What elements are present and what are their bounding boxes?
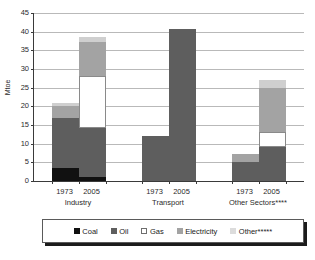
y-axis-tick (31, 50, 34, 51)
legend-item-label: Electricity (185, 227, 217, 236)
bar-other-sectors-1973[interactable] (232, 154, 259, 181)
x-axis-tick (106, 181, 107, 184)
y-axis-tick (31, 162, 34, 163)
y-axis-tick-label: 10 (13, 140, 29, 148)
bar-segment-oil[interactable] (79, 128, 106, 177)
bar-segment-oil[interactable] (52, 118, 79, 168)
legend-item-label: Other***** (239, 227, 272, 236)
y-axis-tick-label: 30 (13, 65, 29, 73)
x-axis-tick (232, 181, 233, 184)
bar-industry-1973[interactable] (52, 103, 79, 181)
stacked-bar-chart: Mtoe 051015202530354045 1973200519732005… (0, 0, 315, 260)
y-axis-tick (31, 32, 34, 33)
coal-swatch (74, 228, 80, 234)
bar-segment-oil[interactable] (232, 162, 259, 181)
legend-item-label: Coal (82, 227, 97, 236)
bar-industry-2005[interactable] (79, 37, 106, 181)
bar-transport-2005[interactable] (169, 29, 196, 181)
electricity-swatch (177, 228, 183, 234)
legend-item[interactable]: Gas (141, 227, 163, 236)
bar-segment-coal[interactable] (79, 177, 106, 181)
x-axis-year-label: 2005 (255, 187, 288, 196)
gridline (34, 13, 304, 14)
bar-segment-other[interactable] (79, 37, 106, 42)
bar-segment-electricity[interactable] (232, 154, 259, 162)
bar-transport-1973[interactable] (142, 136, 169, 181)
bar-segment-electricity[interactable] (52, 106, 79, 117)
x-axis-tick (142, 181, 143, 184)
bar-segment-oil[interactable] (142, 136, 169, 181)
y-axis-tick (31, 181, 34, 182)
y-axis-tick (31, 106, 34, 107)
legend-item[interactable]: Other***** (230, 227, 272, 236)
y-axis-tick (31, 88, 34, 89)
x-axis-year-label: 2005 (165, 187, 198, 196)
legend-item[interactable]: Coal (74, 227, 98, 236)
x-axis-tick (259, 181, 260, 184)
bar-segment-electricity[interactable] (259, 88, 286, 132)
y-axis-tick (31, 13, 34, 14)
legend-item[interactable]: Electricity (177, 227, 218, 236)
plot-area (33, 13, 304, 182)
y-axis-tick (31, 69, 34, 70)
y-axis-tick-label: 35 (13, 46, 29, 54)
y-axis-tick (31, 144, 34, 145)
legend-item-label: Gas (150, 227, 164, 236)
y-axis-tick-label: 45 (13, 9, 29, 17)
y-axis-tick-label: 5 (13, 158, 29, 166)
bar-segment-gas[interactable] (259, 132, 286, 148)
bar-segment-oil[interactable] (169, 29, 196, 181)
y-axis-tick (31, 125, 34, 126)
y-axis-title: Mtoe (4, 65, 11, 111)
chart-legend: CoalOilGasElectricityOther***** (42, 219, 304, 243)
x-axis-tick (169, 181, 170, 184)
legend-item[interactable]: Oil (111, 227, 129, 236)
x-axis-tick (286, 181, 287, 184)
bar-other-sectors-2005[interactable] (259, 80, 286, 181)
x-axis-tick (79, 181, 80, 184)
y-axis-tick-label: 20 (13, 102, 29, 110)
bar-segment-other[interactable] (52, 103, 79, 106)
legend-item-label: Oil (119, 227, 128, 236)
y-axis-tick-label: 15 (13, 121, 29, 129)
x-axis-tick (196, 181, 197, 184)
y-axis-tick-label: 40 (13, 28, 29, 36)
y-axis-tick-labels: 051015202530354045 (12, 0, 29, 260)
bar-segment-other[interactable] (259, 80, 286, 88)
bar-segment-oil[interactable] (259, 147, 286, 181)
y-axis-tick-label: 25 (13, 84, 29, 92)
bar-segment-gas[interactable] (79, 76, 106, 127)
x-axis-group-label: Other Sectors**** (201, 198, 315, 207)
bar-segment-electricity[interactable] (79, 42, 106, 77)
y-axis-tick-label: 0 (13, 177, 29, 185)
x-axis-tick (52, 181, 53, 184)
bar-segment-coal[interactable] (52, 168, 79, 181)
gas-swatch (141, 228, 147, 234)
x-axis-year-label: 2005 (75, 187, 108, 196)
other-swatch (230, 228, 236, 234)
oil-swatch (111, 228, 117, 234)
